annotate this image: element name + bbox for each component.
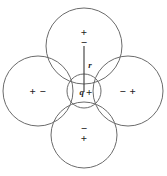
radius-label: r [88,60,92,70]
dipole-label-top: + − [81,27,87,47]
charge-sign: + [86,86,92,98]
central-charge-label: q + [80,86,93,98]
dipole-label-bottom: − + [81,123,87,143]
dipole-top-sign-far: − [81,37,87,47]
dipole-label-left: + − [30,86,47,97]
diagram-canvas: + − + − − + − + r q + [0,0,167,176]
charge-symbol: q [80,87,85,97]
dipole-bottom-sign-far: + [81,133,87,143]
dipole-label-right: − + [120,86,137,97]
